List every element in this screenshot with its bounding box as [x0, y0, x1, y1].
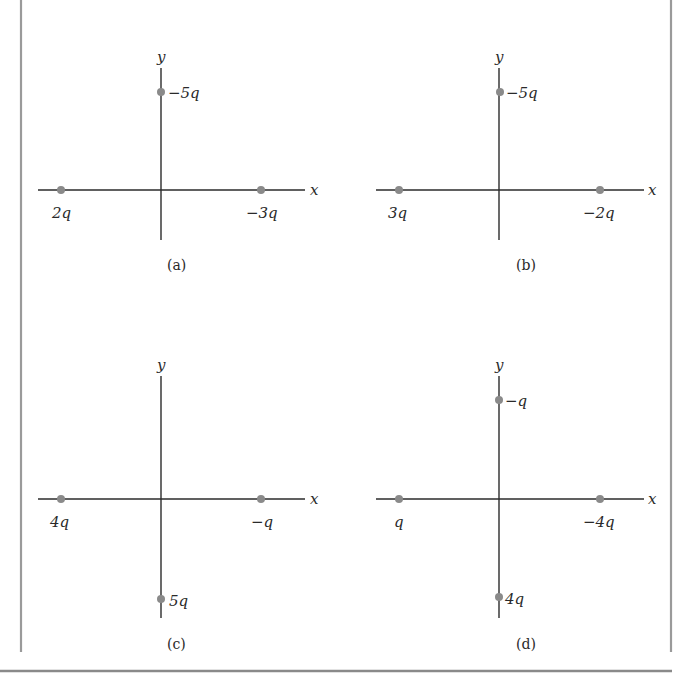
x-axis-label: x [648, 181, 657, 199]
charge-label: 4q [504, 590, 524, 608]
charge-label: −4q [583, 513, 615, 531]
charge-label: −5q [506, 84, 538, 102]
charge-dot [596, 495, 604, 503]
charge-dot [596, 186, 604, 194]
charge-label: −5q [168, 84, 200, 102]
panel-caption: (b) [516, 257, 536, 273]
y-axis-label: y [156, 48, 166, 66]
x-axis-label: x [310, 181, 319, 199]
charge-dot [157, 88, 165, 96]
x-axis-label: x [648, 490, 657, 508]
charge-label: q [394, 513, 404, 531]
charge-label: 3q [388, 204, 407, 222]
x-axis-label: x [310, 490, 319, 508]
charge-label: 4q [49, 513, 69, 531]
charge-dot [57, 495, 65, 503]
charge-dot [395, 495, 403, 503]
charge-dot [57, 186, 65, 194]
panel-b: x y 3q −2q −5q (b) [376, 48, 657, 273]
y-axis-label: y [156, 356, 166, 374]
charge-dot [257, 186, 265, 194]
charge-label: 5q [169, 592, 188, 610]
panel-a: x y 2q −3q −5q (a) [38, 48, 319, 273]
charge-label: 2q [51, 204, 71, 222]
panel-caption: (d) [516, 636, 536, 652]
panel-caption: (c) [167, 636, 186, 652]
charge-dot [257, 495, 265, 503]
charge-dot [495, 396, 503, 404]
panel-d: x y q −4q −q 4q (d) [376, 356, 657, 652]
charge-label: −q [505, 392, 527, 410]
charge-dot [495, 593, 503, 601]
charge-dot [395, 186, 403, 194]
charge-configuration-figure: x y 2q −3q −5q (a) x y 3q −2q −5q (b) x … [0, 0, 698, 697]
panel-c: x y 4q −q 5q (c) [38, 356, 319, 652]
panel-caption: (a) [167, 257, 186, 273]
charge-label: −3q [246, 204, 278, 222]
charge-dot [496, 88, 504, 96]
y-axis-label: y [494, 356, 504, 374]
charge-label: −q [251, 513, 273, 531]
charge-dot [157, 595, 165, 603]
y-axis-label: y [494, 48, 504, 66]
charge-label: −2q [583, 204, 615, 222]
